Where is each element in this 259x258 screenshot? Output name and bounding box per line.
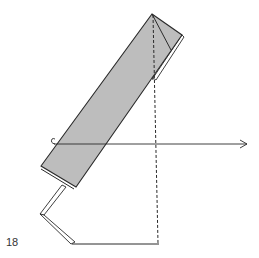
lower-white-strip-legs	[40, 185, 75, 244]
origami-diagram	[0, 0, 259, 258]
shaded-folded-strip	[41, 14, 182, 187]
step-number: 18	[6, 236, 18, 248]
